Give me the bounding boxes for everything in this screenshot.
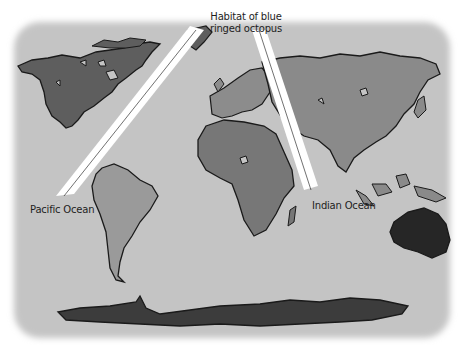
world-map: Habitat of blue ringed octopus Pacific O… bbox=[0, 0, 463, 345]
habitat-title-line2: ringed octopus bbox=[201, 23, 291, 35]
habitat-title: Habitat of blue ringed octopus bbox=[201, 11, 291, 35]
indian-ocean-label: Indian Ocean bbox=[312, 200, 376, 212]
map-graphic bbox=[0, 0, 463, 345]
habitat-title-line1: Habitat of blue bbox=[201, 11, 291, 23]
pacific-ocean-label: Pacific Ocean bbox=[30, 204, 94, 216]
